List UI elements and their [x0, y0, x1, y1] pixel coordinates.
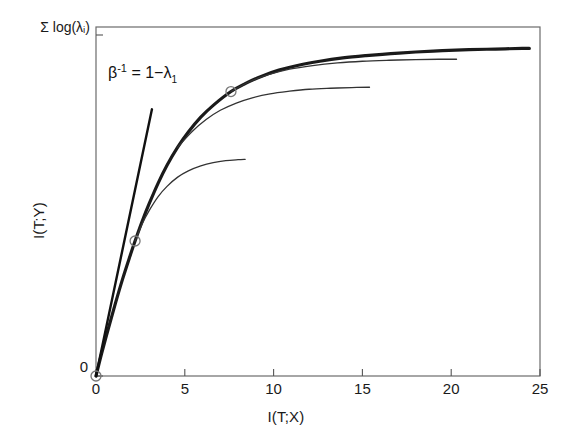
tangent-slope-annotation: β-1 = 1−λ1	[108, 62, 177, 85]
beta-symbol: β	[108, 64, 117, 81]
y-tick-label-top: Σ log(λᵢ)	[2, 19, 90, 35]
x-tick-label-0: 0	[66, 380, 126, 397]
y-tick-label-zero: 0	[52, 358, 88, 375]
x-tick-label-5: 5	[155, 380, 215, 397]
x-tick-label-10: 10	[244, 380, 304, 397]
equals-expression: = 1−	[127, 64, 163, 81]
beta-exponent: -1	[117, 62, 127, 74]
y-axis-title: I(T;Y)	[30, 161, 47, 281]
information-bottleneck-chart: 0 5 10 15 20 25 Σ log(λᵢ) 0 I(T;X) I(T;Y…	[0, 0, 572, 437]
x-tick-label-25: 25	[510, 380, 570, 397]
x-tick-label-20: 20	[421, 380, 481, 397]
x-axis-title: I(T;X)	[0, 408, 572, 425]
x-tick-label-15: 15	[332, 380, 392, 397]
lambda-subscript: 1	[171, 74, 177, 85]
